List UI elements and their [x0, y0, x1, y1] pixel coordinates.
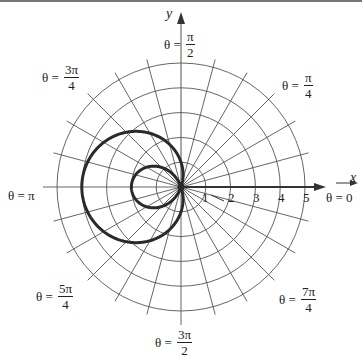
- angle-label-0: θ = 0: [326, 191, 353, 204]
- grid-radial-line: [181, 121, 295, 187]
- grid-radial-line: [181, 94, 274, 187]
- grid-radial-line: [181, 187, 309, 221]
- tick-5: 5: [303, 190, 310, 206]
- tick-4: 4: [278, 190, 285, 206]
- angle-label-3pi-4: θ = 3π4: [42, 63, 79, 92]
- grid-radial-line: [181, 187, 215, 315]
- grid-radial-line: [181, 187, 247, 301]
- angle-label-pi: θ = π: [8, 189, 35, 202]
- angle-label-3pi-2: θ = 3π2: [155, 328, 192, 357]
- grid-radial-line: [181, 59, 215, 187]
- grid-radial-line: [53, 153, 181, 187]
- angle-label-pi-2: θ = π2: [164, 30, 195, 59]
- x-axis-arrow-icon: [314, 183, 326, 191]
- tick-1: 1: [202, 190, 209, 206]
- tick-3: 3: [253, 190, 260, 206]
- origin-point: [178, 184, 185, 191]
- grid-radial-line: [181, 73, 247, 187]
- angle-label-7pi-4: θ = 7π4: [279, 285, 316, 314]
- y-axis-label: y: [166, 6, 172, 22]
- x-axis-label: x: [350, 170, 356, 186]
- grid-radial-line: [115, 73, 181, 187]
- angle-label-5pi-4: θ = 5π4: [36, 282, 73, 311]
- tick-2: 2: [228, 190, 235, 206]
- grid-radial-line: [53, 187, 181, 221]
- grid-radial-line: [181, 153, 309, 187]
- grid-radial-line: [115, 187, 181, 301]
- angle-label-pi-4: θ = π4: [282, 71, 313, 100]
- y-axis-arrow-icon: [177, 12, 185, 24]
